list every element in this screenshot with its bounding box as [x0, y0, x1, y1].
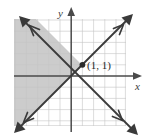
x-axis-arrowhead: [133, 72, 142, 80]
point-label: (1, 1): [87, 59, 111, 72]
coordinate-plane-figure: x y (1, 1): [0, 0, 158, 140]
x-axis-label: x: [134, 80, 140, 92]
y-axis-arrowhead: [67, 7, 75, 16]
y-axis-label: y: [57, 7, 63, 19]
intersection-point-marker: [80, 62, 86, 68]
graph-svg: x y (1, 1): [0, 0, 158, 140]
